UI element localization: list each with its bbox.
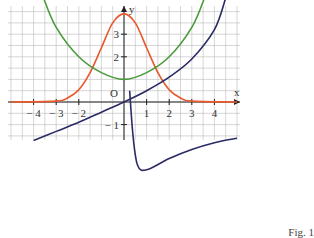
function-plot: − 4− 3− 2123432− 1Oxy <box>0 0 246 172</box>
svg-text:3: 3 <box>114 28 120 40</box>
navy-increasing-curve <box>34 0 226 140</box>
svg-text:− 4: − 4 <box>26 107 41 119</box>
navy-lower-branch <box>130 91 237 171</box>
svg-text:− 1: − 1 <box>105 119 119 131</box>
svg-text:1: 1 <box>144 107 150 119</box>
svg-text:4: 4 <box>212 107 218 119</box>
svg-text:− 3: − 3 <box>49 107 64 119</box>
svg-text:2: 2 <box>114 51 120 63</box>
svg-text:3: 3 <box>189 107 195 119</box>
svg-text:y: y <box>129 3 135 15</box>
labels: − 4− 3− 2123432− 1Oxy <box>26 3 240 131</box>
axes <box>8 6 240 140</box>
svg-text:2: 2 <box>166 107 172 119</box>
svg-text:− 2: − 2 <box>72 107 86 119</box>
svg-text:O: O <box>110 87 118 99</box>
svg-text:x: x <box>234 86 240 98</box>
